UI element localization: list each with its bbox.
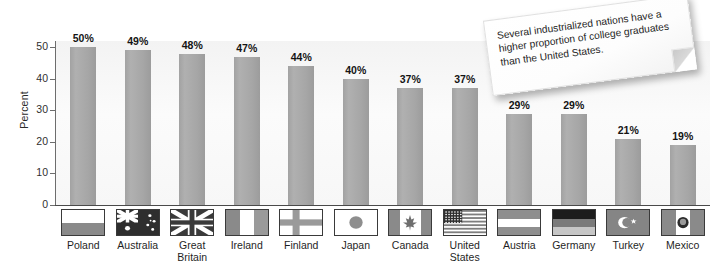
australia-flag	[116, 209, 160, 236]
flag-band	[498, 227, 540, 236]
y-axis-tick-mark	[50, 110, 55, 111]
page-fold-icon	[671, 46, 697, 72]
poland-flag	[61, 209, 105, 236]
bar-group: 48%	[179, 41, 205, 205]
flag-emblem	[335, 210, 377, 235]
mexico-flag	[661, 209, 705, 236]
y-axis-tick-label: 10	[26, 167, 48, 178]
bar-group: 37%	[452, 41, 478, 205]
bar-value-label: 19%	[659, 130, 707, 142]
bar	[506, 114, 532, 205]
bar-value-label: 44%	[277, 51, 325, 63]
bar	[234, 57, 260, 205]
flag-emblem	[117, 210, 159, 235]
country-legend-item[interactable]: Finland	[274, 209, 329, 252]
country-legend-item[interactable]: Australia	[111, 209, 166, 252]
bar	[125, 50, 151, 205]
bar-group: 40%	[343, 41, 369, 205]
country-legend-item[interactable]: Japan	[329, 209, 384, 252]
y-axis-tick-label: 50	[26, 41, 48, 52]
bar	[615, 139, 641, 205]
austria-flag	[497, 209, 541, 236]
country-label: United States	[438, 240, 493, 263]
x-axis-line	[55, 205, 710, 206]
flag-band	[240, 210, 254, 235]
bar-group: 49%	[125, 41, 151, 205]
y-axis-tick-mark	[50, 142, 55, 143]
y-axis-tick-label: 20	[26, 136, 48, 147]
country-label: Turkey	[601, 240, 656, 252]
bar-value-label: 37%	[386, 73, 434, 85]
flag-emblem	[662, 210, 704, 235]
bar-value-label: 37%	[441, 73, 489, 85]
flag-emblem	[171, 210, 213, 235]
country-legend-row: PolandAustraliaGreat BritainIrelandFinla…	[56, 209, 710, 279]
country-label: Finland	[274, 240, 329, 252]
germany-flag	[552, 209, 596, 236]
flag-band	[498, 219, 540, 227]
bar-value-label: 49%	[114, 35, 162, 47]
country-legend-item[interactable]: Poland	[56, 209, 111, 252]
bar-value-label: 40%	[332, 64, 380, 76]
country-label: Germany	[547, 240, 602, 252]
country-label: Austria	[492, 240, 547, 252]
bar-group: 37%	[397, 41, 423, 205]
great-britain-flag	[170, 209, 214, 236]
bar	[670, 145, 696, 205]
flag-emblem	[389, 210, 431, 235]
bar	[179, 54, 205, 205]
country-legend-item[interactable]: Germany	[547, 209, 602, 252]
y-axis-tick-mark	[50, 47, 55, 48]
bar-value-label: 29%	[495, 99, 543, 111]
country-legend-item[interactable]: Ireland	[220, 209, 275, 252]
flag-band	[553, 219, 595, 227]
country-legend-item[interactable]: Great Britain	[165, 209, 220, 263]
bar-value-label: 21%	[604, 124, 652, 136]
flag-band	[62, 223, 104, 236]
bar	[288, 66, 314, 205]
bar-group: 44%	[288, 41, 314, 205]
bar	[561, 114, 587, 205]
finland-flag	[279, 209, 323, 236]
country-label: Great Britain	[165, 240, 220, 263]
flag-emblem	[280, 210, 322, 235]
country-label: Australia	[111, 240, 166, 252]
canada-flag	[388, 209, 432, 236]
annotation-text: Several industrialized nations have a hi…	[496, 5, 683, 69]
country-label: Poland	[56, 240, 111, 252]
country-label: Japan	[329, 240, 384, 252]
country-label: Canada	[383, 240, 438, 252]
country-label: Mexico	[656, 240, 711, 252]
y-axis-tick-mark	[50, 173, 55, 174]
bar-value-label: 48%	[168, 39, 216, 51]
united-states-flag	[443, 209, 487, 236]
country-legend-item[interactable]: United States	[438, 209, 493, 263]
country-label: Ireland	[220, 240, 275, 252]
flag-emblem	[444, 210, 486, 235]
y-axis-tick-mark	[50, 205, 55, 206]
flag-band	[498, 210, 540, 219]
bar-value-label: 50%	[59, 32, 107, 44]
country-legend-item[interactable]: Canada	[383, 209, 438, 252]
flag-band	[62, 210, 104, 223]
bar	[452, 88, 478, 205]
turkey-flag	[606, 209, 650, 236]
japan-flag	[334, 209, 378, 236]
y-axis-tick-mark	[50, 79, 55, 80]
country-legend-item[interactable]: Mexico	[656, 209, 711, 252]
bar	[397, 88, 423, 205]
bar-value-label: 29%	[550, 99, 598, 111]
ireland-flag	[225, 209, 269, 236]
y-axis-tick-label: 30	[26, 104, 48, 115]
flag-emblem	[607, 210, 649, 235]
y-axis-tick-label: 0	[26, 199, 48, 210]
country-legend-item[interactable]: Turkey	[601, 209, 656, 252]
bar-group: 50%	[70, 41, 96, 205]
y-axis-tick-labels: 01020304050	[22, 0, 48, 279]
country-legend-item[interactable]: Austria	[492, 209, 547, 252]
flag-band	[553, 227, 595, 236]
flag-band	[254, 210, 268, 235]
bar-group: 47%	[234, 41, 260, 205]
y-axis-tick-label: 40	[26, 73, 48, 84]
flag-band	[553, 210, 595, 219]
